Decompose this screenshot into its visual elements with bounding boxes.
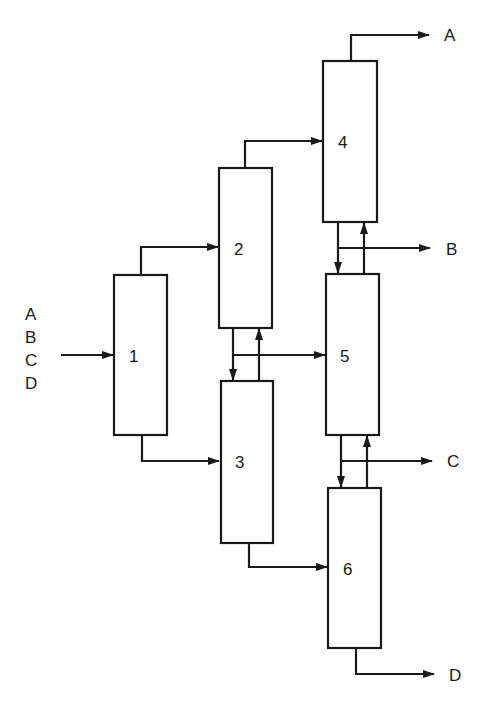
feed-component-d: D <box>25 374 37 393</box>
product-c-label: C <box>447 452 459 471</box>
column-1 <box>114 275 167 435</box>
column-2 <box>219 168 272 328</box>
column-3 <box>221 381 273 543</box>
process-flow-diagram: A B C D 1 2 3 4 A B 5 C 6 D <box>0 0 487 701</box>
column-2-label: 2 <box>234 240 243 259</box>
arrow-1-to-2 <box>141 247 218 275</box>
column-5 <box>326 274 379 435</box>
product-d-label: D <box>449 666 461 685</box>
column-5-label: 5 <box>340 347 349 366</box>
column-6-label: 6 <box>343 560 352 579</box>
arrow-1-to-3 <box>142 435 219 461</box>
column-3-label: 3 <box>235 453 244 472</box>
feed-component-b: B <box>25 328 36 347</box>
column-1-label: 1 <box>129 347 138 366</box>
arrow-6-to-product-d <box>356 648 434 674</box>
column-4 <box>323 61 377 222</box>
arrow-2-to-4 <box>245 141 322 168</box>
feed-component-c: C <box>25 351 37 370</box>
arrow-4-to-product-a <box>351 35 429 61</box>
product-a-label: A <box>444 26 456 45</box>
feed-component-a: A <box>25 305 37 324</box>
arrow-3-to-6 <box>249 543 327 567</box>
product-b-label: B <box>446 240 457 259</box>
column-4-label: 4 <box>338 133 347 152</box>
column-6 <box>328 488 381 648</box>
